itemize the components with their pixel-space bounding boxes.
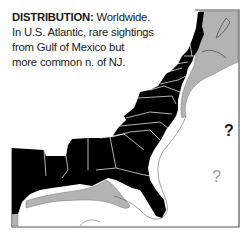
- caption-label: DISTRIBUTION:: [12, 11, 94, 23]
- caption-line2: In U.S. Atlantic, rare sightings: [12, 26, 154, 38]
- caption-line1: Worldwide.: [94, 11, 151, 23]
- gulf-shelf-outline: [80, 220, 100, 226]
- texas-range-sliver: [12, 214, 18, 226]
- uncertain-marker-light: ?: [212, 168, 221, 186]
- distribution-caption: DISTRIBUTION: Worldwide. In U.S. Atlanti…: [12, 10, 162, 70]
- caption-line3: from Gulf of Mexico but: [12, 41, 124, 53]
- caption-line4: more common n. of NJ.: [12, 56, 125, 68]
- uncertain-marker-dark: ?: [224, 122, 234, 140]
